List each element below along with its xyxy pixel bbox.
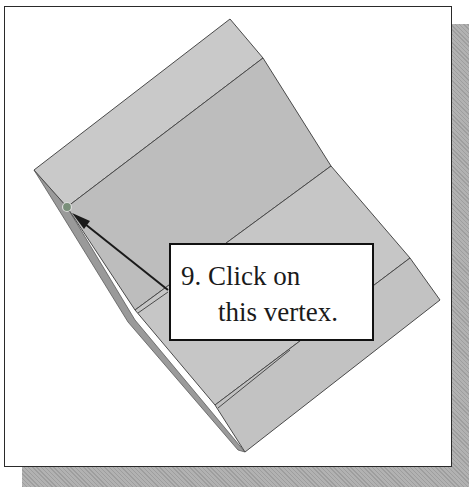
- vertex-marker-icon[interactable]: [63, 203, 72, 212]
- callout-line-2: this vertex.: [181, 294, 372, 330]
- callout-line-1: 9. Click on: [181, 258, 372, 294]
- instruction-callout: 9. Click on this vertex.: [169, 243, 374, 341]
